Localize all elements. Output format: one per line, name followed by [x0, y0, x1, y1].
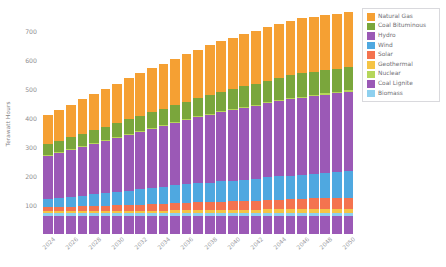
x-axis-tick-2046: 2046: [296, 236, 311, 251]
segment-hydro: [112, 138, 122, 192]
segment-coal-bituminous: [159, 109, 169, 125]
segment-hydro: [159, 126, 169, 187]
bar-2025[interactable]: [54, 110, 64, 234]
segment-coal-lignite: [170, 216, 180, 234]
bar-2036[interactable]: [182, 54, 192, 234]
segment-coal-lignite: [124, 216, 134, 234]
stacked-bar-chart: Terawatt Hours 100200300400500600700 202…: [0, 0, 446, 267]
bar-2049[interactable]: [332, 14, 342, 234]
bar-2048[interactable]: [320, 15, 330, 234]
legend-item-label: Wind: [378, 43, 393, 49]
segment-hydro: [216, 112, 226, 181]
bar-2032[interactable]: [135, 73, 145, 234]
legend-item-solar[interactable]: Solar: [366, 50, 436, 60]
segment-coal-bituminous: [147, 112, 157, 128]
segment-wind: [228, 181, 238, 202]
segment-hydro: [78, 147, 88, 196]
bar-2031[interactable]: [124, 78, 134, 234]
segment-coal-bituminous: [43, 144, 53, 154]
segment-natural-gas: [182, 54, 192, 101]
y-axis-tick-200: 200: [25, 173, 37, 180]
segment-wind: [78, 196, 88, 207]
bar-2024[interactable]: [43, 115, 53, 234]
bar-2047[interactable]: [309, 17, 319, 234]
bar-2027[interactable]: [78, 99, 88, 234]
bar-2029[interactable]: [101, 89, 111, 234]
bar-2037[interactable]: [193, 50, 203, 234]
segment-natural-gas: [228, 38, 238, 90]
segment-coal-lignite: [159, 216, 169, 234]
legend-item-coal-bituminous[interactable]: Coal Bituminous: [366, 22, 436, 32]
x-axis-tick-2038: 2038: [203, 236, 218, 251]
bar-2040[interactable]: [228, 38, 238, 234]
segment-hydro: [89, 144, 99, 194]
segment-solar: [274, 200, 284, 210]
bar-2028[interactable]: [89, 94, 99, 234]
segment-coal-bituminous: [78, 134, 88, 146]
segment-coal-bituminous: [182, 102, 192, 119]
segment-solar: [159, 204, 169, 211]
bar-2046[interactable]: [297, 18, 307, 234]
segment-natural-gas: [170, 59, 180, 105]
legend-item-geothermal[interactable]: Geothermal: [366, 60, 436, 70]
segment-solar: [216, 202, 226, 210]
bar-2043[interactable]: [263, 27, 273, 234]
legend-item-label: Nuclear: [378, 71, 401, 77]
segment-hydro: [147, 129, 157, 188]
bar-2044[interactable]: [274, 24, 284, 234]
y-axis-tick-400: 400: [25, 115, 37, 122]
segment-wind: [239, 180, 249, 201]
legend-item-nuclear[interactable]: Nuclear: [366, 70, 436, 80]
segment-coal-bituminous: [332, 69, 342, 92]
bar-2034[interactable]: [159, 64, 169, 234]
segment-hydro: [297, 98, 307, 175]
segment-coal-bituminous: [112, 123, 122, 137]
segment-wind: [182, 184, 192, 203]
legend-item-label: Hydro: [378, 33, 396, 39]
segment-coal-bituminous: [228, 89, 238, 109]
segment-coal-lignite: [228, 216, 238, 234]
segment-wind: [216, 181, 226, 201]
segment-coal-lignite: [43, 216, 53, 234]
legend-item-label: Biomass: [378, 91, 403, 97]
legend-item-label: Coal Bituminous: [378, 23, 426, 29]
y-axis-tick-300: 300: [25, 144, 37, 151]
segment-hydro: [228, 110, 238, 181]
segment-natural-gas: [159, 64, 169, 109]
legend-item-hydro[interactable]: Hydro: [366, 31, 436, 41]
segment-hydro: [124, 135, 134, 191]
segment-coal-bituminous: [89, 130, 99, 143]
bar-2045[interactable]: [286, 21, 296, 234]
segment-coal-bituminous: [54, 141, 64, 152]
legend-item-natural-gas[interactable]: Natural Gas: [366, 12, 436, 22]
segment-natural-gas: [135, 73, 145, 116]
y-axis-tick-100: 100: [25, 202, 37, 209]
segment-wind: [112, 192, 122, 205]
legend-item-biomass[interactable]: Biomass: [366, 89, 436, 99]
legend-item-wind[interactable]: Wind: [366, 41, 436, 51]
bar-2050[interactable]: [344, 12, 354, 234]
segment-natural-gas: [263, 27, 273, 80]
segment-solar: [320, 198, 330, 209]
segment-coal-lignite: [332, 216, 342, 234]
bar-2038[interactable]: [205, 45, 215, 234]
segment-coal-bituminous: [135, 116, 145, 131]
legend-swatch-icon: [367, 80, 375, 88]
bar-2041[interactable]: [239, 34, 249, 234]
legend-item-coal-lignite[interactable]: Coal Lignite: [366, 79, 436, 89]
bar-2033[interactable]: [147, 68, 157, 234]
segment-coal-lignite: [263, 216, 273, 234]
bar-2026[interactable]: [66, 105, 76, 234]
segment-coal-lignite: [216, 216, 226, 234]
y-axis-title: Terawatt Hours: [5, 102, 11, 147]
segment-wind: [205, 183, 215, 203]
segment-coal-lignite: [274, 216, 284, 234]
segment-natural-gas: [54, 110, 64, 141]
bar-2042[interactable]: [251, 31, 261, 234]
bar-2035[interactable]: [170, 59, 180, 234]
segment-solar: [251, 201, 261, 210]
bar-2030[interactable]: [112, 84, 122, 234]
legend-swatch-icon: [367, 42, 375, 50]
x-axis-tick-labels: 2024202620282030203220342036203820402042…: [42, 236, 354, 266]
bar-2039[interactable]: [216, 41, 226, 234]
